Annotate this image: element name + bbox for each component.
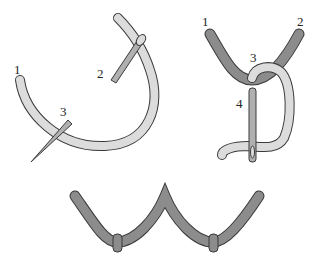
label-1: 1 bbox=[202, 14, 209, 29]
label-4: 4 bbox=[236, 96, 243, 111]
tie-stitch-right bbox=[209, 234, 218, 252]
panel-step-2: 1 2 3 4 bbox=[202, 14, 304, 162]
needle-icon bbox=[249, 88, 256, 162]
stitch-diagram: 1 2 3 1 2 3 4 bbox=[0, 0, 319, 263]
label-3: 3 bbox=[250, 50, 257, 65]
panel-finished-row bbox=[75, 196, 259, 252]
label-1: 1 bbox=[14, 62, 21, 77]
panel-step-1: 1 2 3 bbox=[14, 18, 154, 162]
label-2: 2 bbox=[297, 14, 304, 29]
label-3: 3 bbox=[60, 104, 67, 119]
tie-stitch-left bbox=[113, 234, 122, 252]
dark-thread-w bbox=[75, 196, 259, 242]
label-2: 2 bbox=[97, 66, 104, 81]
